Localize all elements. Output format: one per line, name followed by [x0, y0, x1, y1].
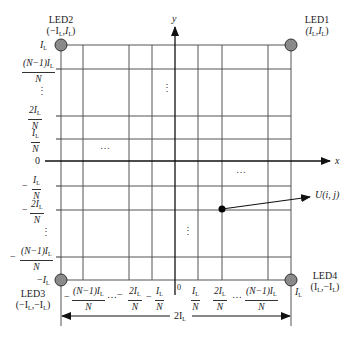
- led3-label: LED3 (−IL,−IL): [8, 288, 58, 314]
- y-ellipsis-lower: ⋮: [41, 230, 47, 234]
- y-tick-marks: [56, 69, 61, 257]
- grid-ellipsis-left: …: [100, 140, 110, 151]
- point-u-label: U(i, j): [315, 190, 339, 200]
- x-label-zero: 0: [177, 283, 181, 293]
- x-label-IL: IL: [295, 287, 302, 300]
- x-label-neg-2-over-n: 2IL N: [128, 286, 142, 312]
- x-ellipsis-neg: …−: [107, 290, 123, 300]
- y-label-1-over-n: IL N: [31, 128, 40, 154]
- led4-label: LED4 (IL,−IL): [300, 270, 350, 296]
- y-label-neg-2-over-n: 2IL N: [30, 199, 44, 225]
- grid-ellipsis-bottom: ⋮: [183, 229, 189, 233]
- point-u-vector: [222, 197, 310, 209]
- x-label-neg-1-over-n: IL N: [155, 286, 164, 312]
- x-label-1-over-n: IL N: [191, 286, 200, 312]
- y-label-neg-IL: −IL: [37, 275, 50, 288]
- y-label-n1-over-n: (N−1)IL N: [22, 58, 55, 84]
- grid-ellipsis-right: …: [236, 164, 246, 175]
- led4-icon: [285, 274, 297, 286]
- dimension-label: 2IL: [172, 311, 188, 324]
- led1-label: LED1 (IL,IL): [292, 14, 342, 40]
- led-markers: [55, 39, 297, 286]
- x-label-neg-1-sign: −: [146, 292, 152, 302]
- y-label-IL: IL: [40, 40, 47, 53]
- y-label-neg-1-over-n: IL N: [32, 175, 41, 201]
- led1-icon: [285, 39, 297, 51]
- led2-label: LED2 (−IL,IL): [36, 14, 86, 40]
- x-ellipsis-pos: …: [232, 290, 242, 300]
- led2-icon: [55, 39, 67, 51]
- led3-icon: [55, 274, 67, 286]
- y-label-neg-n1-over-n: (N−1)IL N: [20, 246, 53, 272]
- x-label-2-over-n: 2IL N: [213, 286, 227, 312]
- y-axis-label: y: [172, 14, 176, 24]
- x-label-n1-over-n: (N−1)IL N: [245, 286, 278, 312]
- x-label-neg-n1-over-n: (N−1)IL N: [72, 286, 105, 312]
- x-axis-label: x: [335, 156, 339, 166]
- y-label-neg-n1-sign: −: [10, 252, 16, 262]
- grid-horizontal-lines: [61, 45, 291, 280]
- x-label-neg-n1-sign: −: [64, 292, 70, 302]
- y-label-neg-2-sign: −: [22, 205, 28, 215]
- grid-ellipsis-top: ⋮: [162, 86, 168, 90]
- y-label-neg-1-sign: −: [22, 181, 28, 191]
- y-label-zero: 0: [35, 156, 40, 166]
- y-ellipsis-upper: ⋮: [37, 89, 43, 93]
